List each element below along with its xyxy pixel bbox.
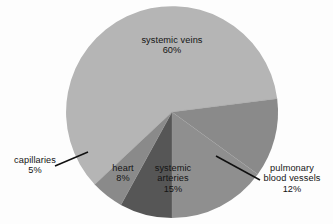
pie-chart-figure: systemic veins 60% heart 8% systemic art… (0, 0, 333, 224)
pie-chart-svg (0, 0, 333, 224)
